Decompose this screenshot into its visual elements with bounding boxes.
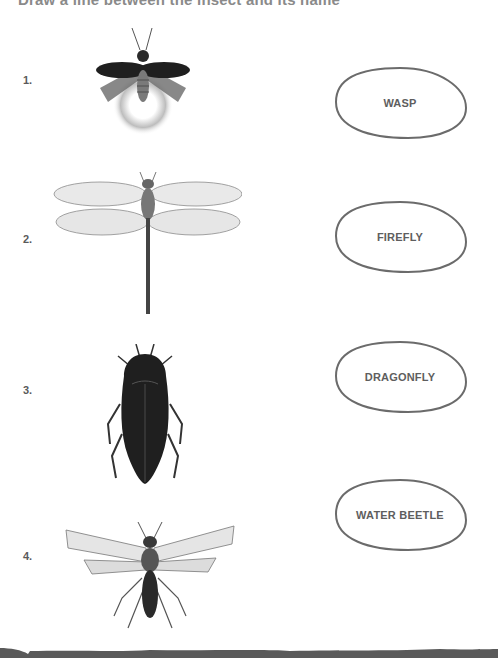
firefly-illustration[interactable] [80, 20, 200, 140]
item-number-4: 4. [23, 550, 32, 562]
water-beetle-illustration[interactable] [100, 344, 190, 492]
item-number-2: 2. [23, 233, 32, 245]
label-text: WATER BEETLE [330, 476, 470, 554]
label-text: FIREFLY [330, 198, 470, 276]
footer-band [0, 648, 498, 658]
item-number-3: 3. [23, 384, 32, 396]
label-text: WASP [330, 64, 470, 142]
label-oval-firefly[interactable]: FIREFLY [330, 198, 470, 276]
item-number-1: 1. [23, 74, 32, 86]
worksheet-title: Draw a line between the insect and its n… [18, 0, 340, 8]
label-text: DRAGONFLY [330, 338, 470, 416]
dragonfly-illustration[interactable] [52, 172, 242, 320]
wasp-illustration[interactable] [62, 518, 238, 632]
label-oval-dragonfly[interactable]: DRAGONFLY [330, 338, 470, 416]
label-oval-wasp[interactable]: WASP [330, 64, 470, 142]
label-oval-water-beetle[interactable]: WATER BEETLE [330, 476, 470, 554]
